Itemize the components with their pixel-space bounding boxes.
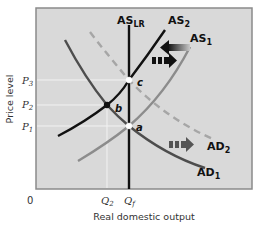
- p3-tick-label: P3: [21, 75, 34, 88]
- y-axis-title: Price level: [4, 75, 15, 124]
- point-b-label: b: [115, 103, 122, 114]
- p1-tick-label: P1: [21, 121, 33, 134]
- aggregate-supply-demand-chart: c b a ASLR AS2 AS1: [0, 0, 258, 225]
- point-c-label: c: [137, 77, 143, 88]
- x-axis-title: Real domestic output: [93, 211, 195, 222]
- point-c-marker: [126, 77, 132, 83]
- p2-tick-label: P2: [21, 99, 34, 112]
- point-a-marker: [126, 123, 132, 129]
- point-b-marker: [104, 102, 110, 108]
- q2-tick-label: Q2: [101, 195, 114, 208]
- plot-area: [36, 8, 252, 189]
- origin-label: 0: [27, 195, 33, 206]
- point-a-label: a: [136, 122, 143, 133]
- qf-tick-label: Qf: [124, 195, 136, 208]
